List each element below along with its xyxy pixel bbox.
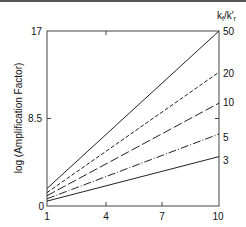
series-line-10	[47, 103, 219, 196]
y-tick-label-8.5: 8.5	[28, 113, 42, 124]
x-tick-label-7: 7	[159, 211, 165, 222]
series-line-5	[47, 134, 219, 199]
series-label-5: 5	[223, 132, 229, 143]
plot-frame	[47, 31, 219, 206]
series-label-10: 10	[223, 97, 235, 108]
amplification-chart: 17 8.5 0 1 4 7 10 log (Amplification Fac…	[0, 0, 246, 227]
legend-title: kf/k′r	[217, 10, 237, 22]
x-tick-label-1: 1	[44, 211, 50, 222]
series-label-20: 20	[223, 68, 235, 79]
series-line-3	[47, 157, 219, 202]
y-tick-label-17: 17	[31, 26, 43, 37]
x-tick-label-10: 10	[212, 211, 224, 222]
y-axis-title: log (Amplification Factor)	[13, 63, 24, 174]
x-tick-label-4: 4	[103, 211, 109, 222]
series-line-50	[47, 31, 219, 189]
series-label-3: 3	[223, 155, 229, 166]
series-line-20	[47, 72, 219, 192]
series-label-50: 50	[223, 26, 235, 37]
